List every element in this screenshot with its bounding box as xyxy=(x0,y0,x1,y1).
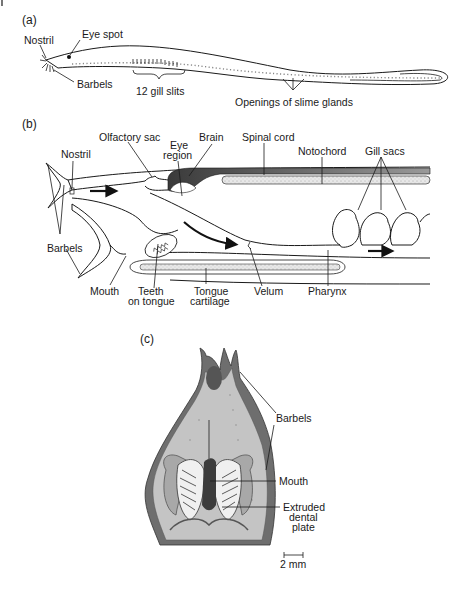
panel-b-label: (b) xyxy=(22,117,37,131)
ventral-outline xyxy=(170,280,430,284)
nasal-tube-lower xyxy=(72,181,145,190)
panel-c-label: (c) xyxy=(140,332,154,346)
nasal-opening xyxy=(206,366,222,390)
label-pharynx: Pharynx xyxy=(308,285,347,297)
label-nostril-b: Nostril xyxy=(61,148,91,160)
panel-c: (c) xyxy=(140,332,325,570)
barbels-b-leaders xyxy=(48,165,80,274)
label-nostril-a: Nostril xyxy=(24,34,54,46)
label-gill-sacs: Gill sacs xyxy=(365,145,405,157)
lower-barbel xyxy=(72,204,111,278)
velum xyxy=(248,242,251,249)
tongue-cartilage xyxy=(140,264,340,270)
label-slime-glands: Openings of slime glands xyxy=(235,96,353,108)
label-barbels-b: Barbels xyxy=(47,242,83,254)
notochord xyxy=(222,176,430,184)
hagfish-anatomy-figure: (a) xyxy=(0,0,463,592)
slime-glands-leader xyxy=(283,78,304,90)
pharynx-floor xyxy=(160,252,430,258)
label-velum: Velum xyxy=(254,285,283,297)
label-dental-3: plate xyxy=(292,521,315,533)
label-eye-spot: Eye spot xyxy=(82,28,123,40)
label-brain: Brain xyxy=(199,131,224,143)
label-scale: 2 mm xyxy=(280,558,307,570)
panel-b: (b) xyxy=(22,117,430,307)
label-spinal-cord: Spinal cord xyxy=(242,131,295,143)
label-notochord: Notochord xyxy=(298,145,347,157)
label-teeth-2: on tongue xyxy=(128,295,175,307)
gill-sacs xyxy=(333,210,431,248)
panel-a-label: (a) xyxy=(22,13,37,27)
label-tongue-cart-2: cartilage xyxy=(190,295,230,307)
mouth-center xyxy=(202,458,216,510)
mouth-opening xyxy=(110,245,126,254)
mouth-leader xyxy=(110,256,126,285)
olfactory-sac xyxy=(145,176,168,190)
eye-spot-leader xyxy=(70,40,80,55)
label-eye-region-2: region xyxy=(163,149,192,161)
label-olfactory-sac: Olfactory sac xyxy=(99,131,160,143)
flow-arrow-pharynx xyxy=(184,222,232,244)
label-barbels-c: Barbels xyxy=(276,412,312,424)
nostril-b-leader xyxy=(72,161,73,188)
upper-barbel xyxy=(46,163,72,208)
pharynx-upper-wall xyxy=(150,193,340,246)
panel-a: (a) xyxy=(22,13,448,108)
label-gill-slits: 12 gill slits xyxy=(136,85,184,97)
gill-slits-brace xyxy=(133,70,185,79)
eye-spot xyxy=(67,55,71,59)
barbels-leader xyxy=(54,70,74,82)
label-barbels-a: Barbels xyxy=(77,78,113,90)
slime-gland-row xyxy=(72,63,440,78)
label-mouth-c: Mouth xyxy=(279,475,308,487)
label-mouth-b: Mouth xyxy=(90,285,119,297)
